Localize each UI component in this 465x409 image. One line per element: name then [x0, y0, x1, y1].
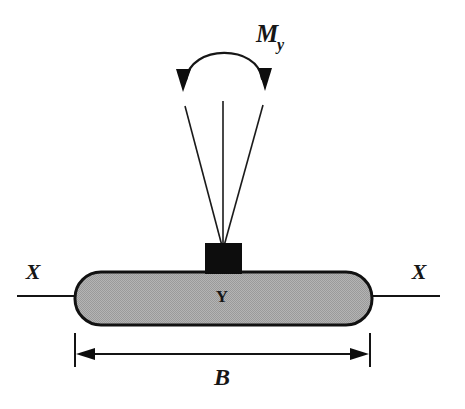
moment-symbol-label: M	[255, 20, 279, 47]
footing-label: Y	[216, 287, 228, 306]
axis-label-left: X	[25, 259, 42, 284]
foundation-moment-diagram: M y Y X X	[0, 0, 465, 409]
moment-subscript-label: y	[275, 36, 285, 54]
column-stub	[205, 243, 242, 274]
figure-root: M y Y X X	[0, 0, 465, 409]
axis-label-right: X	[411, 259, 428, 284]
diagram-background	[0, 0, 465, 409]
width-dimension-label: B	[213, 364, 230, 390]
